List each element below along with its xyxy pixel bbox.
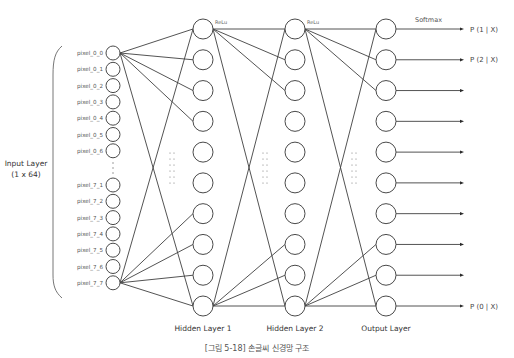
input-node (106, 111, 120, 125)
hidden1-node (193, 81, 213, 101)
hidden2-node (285, 265, 305, 285)
ellipsis-dot (351, 158, 352, 159)
output-node (376, 296, 396, 316)
input-node (106, 194, 120, 208)
input-node-label: pixel_7_5 (77, 247, 103, 254)
hidden1-node (193, 173, 213, 193)
ellipsis-dot (173, 176, 174, 177)
connection-edge (120, 53, 193, 121)
ellipsis-dot (355, 182, 356, 183)
ellipsis-dot (351, 152, 352, 153)
hidden2-activation-label: ReLu (307, 19, 319, 25)
hidden2-node (285, 234, 305, 254)
connection-edge (305, 29, 376, 60)
input-node-label: pixel_7_3 (77, 215, 103, 222)
input-node (106, 46, 120, 60)
connection-edge (213, 275, 285, 306)
hidden-layer-1-label: Hidden Layer 1 (174, 324, 231, 333)
hidden1-node (193, 142, 213, 162)
hidden1-node (193, 204, 213, 224)
ellipsis-dot (355, 152, 356, 153)
hidden1-activation-label: ReLu (215, 19, 227, 25)
neural-network-diagram: P (1 | X)P (2 | X)P (0 | X)pixel_0_0pixe… (0, 0, 514, 358)
connection-edges (120, 29, 376, 306)
arrowhead-icon (460, 120, 464, 123)
ellipsis-dot (173, 182, 174, 183)
output-layer-label: Output Layer (361, 324, 411, 333)
ellipsis-dot (355, 164, 356, 165)
arrowhead-icon (460, 27, 464, 30)
connection-edge (305, 244, 376, 306)
input-node (106, 62, 120, 76)
input-node-label: pixel_0_3 (77, 99, 103, 106)
output-node (376, 81, 396, 101)
ellipsis-dot (266, 164, 267, 165)
hidden1-node (193, 111, 213, 131)
hidden1-node (193, 296, 213, 316)
output-node (376, 204, 396, 224)
connection-edge (120, 29, 193, 53)
ellipsis-dot (169, 164, 170, 165)
connection-edge (305, 275, 376, 306)
hidden2-node (285, 81, 305, 101)
hidden1-node (193, 265, 213, 285)
input-node (106, 128, 120, 142)
input-node (106, 144, 120, 158)
hidden1-node (193, 19, 213, 39)
connection-edge (305, 29, 376, 91)
ellipsis-dot (266, 158, 267, 159)
ellipsis-dot (262, 152, 263, 153)
output-node (376, 173, 396, 193)
hidden2-node (285, 19, 305, 39)
arrowhead-icon (460, 304, 464, 307)
hidden2-node (285, 50, 305, 70)
connection-edge (120, 283, 193, 306)
input-node (106, 260, 120, 274)
ellipsis-dot (266, 170, 267, 171)
ellipsis-dot (262, 182, 263, 183)
arrowhead-icon (460, 212, 464, 215)
ellipsis-dot (355, 170, 356, 171)
ellipsis-dot (351, 164, 352, 165)
connection-edge (120, 53, 193, 306)
input-node-label: pixel_0_0 (77, 50, 103, 57)
ellipsis-dot (351, 176, 352, 177)
ellipsis-dot (112, 172, 113, 173)
output-node (376, 50, 396, 70)
input-node-label: pixel_7_2 (77, 198, 103, 205)
input-node (106, 95, 120, 109)
hidden-layer-2-label: Hidden Layer 2 (266, 324, 323, 333)
ellipsis-dot (173, 158, 174, 159)
ellipsis-dot (112, 162, 113, 163)
input-node-label: pixel_0_2 (77, 83, 103, 90)
output-node (376, 19, 396, 39)
input-node-label: pixel_0_1 (77, 66, 103, 73)
hidden2-node (285, 173, 305, 193)
ellipsis-dot (262, 170, 263, 171)
ellipsis-dot (173, 170, 174, 171)
output-node (376, 234, 396, 254)
ellipsis-dot (169, 182, 170, 183)
arrowhead-icon (460, 181, 464, 184)
input-node-label: pixel_7_4 (77, 231, 103, 238)
layer-nodes (106, 19, 396, 316)
ellipsis-dot (355, 176, 356, 177)
ellipsis-dot (169, 170, 170, 171)
input-node (106, 178, 120, 192)
input-node (106, 211, 120, 225)
output-node (376, 111, 396, 131)
output-probability-label: P (1 | X) (470, 26, 498, 34)
output-node (376, 142, 396, 162)
arrowhead-icon (460, 58, 464, 61)
ellipsis-dot (351, 170, 352, 171)
connection-edge (213, 244, 285, 306)
ellipsis-dot (266, 152, 267, 153)
ellipsis-dot (351, 182, 352, 183)
ellipsis-dot (262, 158, 263, 159)
hidden2-node (285, 204, 305, 224)
output-probability-label: P (0 | X) (470, 303, 498, 311)
input-node-label: pixel_0_6 (77, 148, 103, 155)
input-node-label: pixel_7_7 (77, 280, 103, 287)
ellipsis-dot (266, 176, 267, 177)
output-activation-label: Softmax (415, 16, 442, 24)
